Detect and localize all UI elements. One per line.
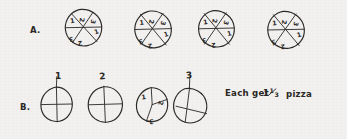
b-circle-1: 1 (41, 71, 72, 122)
a-circle-3: 1 2 3 1 2 3 (199, 11, 235, 50)
a-circle-1-slice-1: 1 (70, 17, 76, 26)
worksheet-sheet: 1 2 3 1 2 3 1 2 3 1 2 3 1 2 (0, 0, 347, 139)
b-circle-3-slice-2: 2 (156, 100, 165, 106)
note-suffix: pizza (286, 89, 312, 99)
row-b-label: B. (20, 102, 30, 112)
b-circle-4: 3 (174, 70, 207, 123)
answer-note: Each get 1 1 3 pizza (225, 87, 312, 100)
b-circle-3: 1 2 3 (136, 87, 167, 125)
b-circle-1-top-label: 1 (55, 71, 61, 81)
b-circle-3-slice-1: 1 (141, 93, 147, 102)
b-circle-2: 2 (88, 71, 122, 123)
a-circle-4-slice-6: 3 (270, 37, 277, 46)
a-circle-3-slice-4: 1 (226, 29, 232, 38)
a-circle-2-slice-1: 1 (139, 19, 144, 27)
a-circle-3-slice-6: 3 (201, 36, 208, 45)
a-circle-3-slice-3: 3 (222, 19, 231, 25)
b-circle-3-slice-3: 3 (149, 117, 154, 125)
a-circle-4-slice-3: 3 (291, 21, 300, 27)
row-a-label: A. (30, 25, 40, 35)
a-circle-3-slice-1: 1 (203, 18, 209, 27)
a-circle-4-slice-1: 1 (272, 19, 277, 27)
a-circle-3-slice-2: 2 (210, 18, 218, 23)
a-circle-2-slice-3: 3 (158, 20, 167, 26)
a-circle-4-slice-5: 2 (280, 42, 285, 50)
a-circle-1-slice-5: 2 (77, 39, 83, 48)
a-circle-1-slice-4: 1 (93, 27, 100, 36)
a-circle-1-slice-2: 2 (78, 17, 86, 22)
b-circle-2-top-label: 2 (99, 71, 106, 82)
a-circle-3-slice-5: 2 (211, 41, 216, 49)
worksheet-drawing: 1 2 3 1 2 3 1 2 3 1 2 3 1 2 (0, 0, 347, 139)
a-circle-4-slice-4: 1 (296, 31, 302, 40)
a-circle-2: 1 2 3 1 2 3 (135, 11, 172, 50)
note-fraction-denominator: 3 (275, 91, 279, 98)
note-whole-number: 1 (263, 88, 269, 98)
a-circle-2-slice-5: 2 (147, 42, 152, 50)
a-circle-1-slice-3: 3 (88, 19, 97, 25)
b-circle-4-top-label: 3 (185, 70, 192, 81)
a-circle-4: 1 2 3 1 2 3 (268, 11, 305, 50)
a-circle-1: 1 2 3 1 2 3 (65, 9, 101, 47)
a-circle-2-slice-6: 3 (137, 37, 144, 46)
a-circle-2-slice-4: 1 (163, 30, 169, 39)
